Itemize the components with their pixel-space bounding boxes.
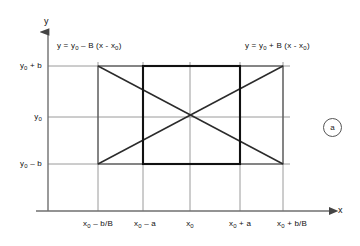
y-tick-y0: y0 [2,112,42,121]
figure-panel: y x y = y0 – B (x - x0) y = y0 + B (x - … [0,0,360,246]
equation-left: y = y0 – B (x - x0) [57,41,122,50]
panel-label-text: a [330,123,334,132]
y-tick-y0-minus-b: y0 – b [2,159,42,168]
x-tick-x0: x0 [186,219,194,228]
x-tick-x0-plus-bB: x0 + b/B [277,219,307,228]
panel-label-badge: a [323,118,342,137]
x-tick-x0-minus-bB: x0 – b/B [83,219,113,228]
y-axis-label: y [44,16,49,26]
diagram-canvas [0,0,360,246]
x-axis-label: x [338,205,343,215]
x-tick-x0-plus-a: x0 + a [229,219,251,228]
axis-lines [36,32,330,211]
x-tick-x0-minus-a: x0 – a [134,219,156,228]
y-tick-y0-plus-b: y0 + b [2,61,42,70]
equation-right: y = y0 + B (x - x0) [245,41,310,50]
vertical-gridlines [98,62,283,211]
